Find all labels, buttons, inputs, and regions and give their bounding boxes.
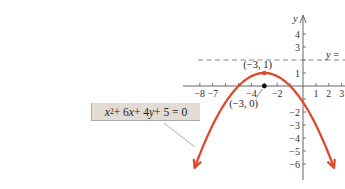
focus-leader-line xyxy=(256,89,262,98)
x-tick-label: 3 xyxy=(339,88,344,99)
x-tick-label: 1 xyxy=(313,88,318,99)
x-tick-label: −2 xyxy=(272,88,283,99)
eq-part-3: + 5 = 0 xyxy=(154,106,187,118)
parabola-chart: y−8−7−4−2123431−2−3−4−5−6 y = (−3, 1)(−3… xyxy=(0,0,345,189)
y-tick-label: −5 xyxy=(289,146,300,157)
x-tick-label: −7 xyxy=(207,88,218,99)
directrix-label: y = xyxy=(325,49,339,60)
y-tick-label: −2 xyxy=(289,107,300,118)
vertex-point xyxy=(262,71,267,76)
x-tick-label: 2 xyxy=(326,88,331,99)
y-tick-label: 3 xyxy=(295,42,300,53)
y-tick-label: −6 xyxy=(289,159,300,170)
equation-label: x2 + 6x + 4y + 5 = 0 xyxy=(91,103,200,121)
focus-label: (−3, 0) xyxy=(229,98,258,110)
vertex-label: (−3, 1) xyxy=(243,59,272,71)
y-tick-label: −3 xyxy=(289,120,300,131)
eq-part-2: + 4 xyxy=(134,106,149,118)
axes: y−8−7−4−2123431−2−3−4−5−6 xyxy=(183,13,345,180)
equation-leader-line xyxy=(164,123,195,147)
y-axis-label: y xyxy=(292,13,298,24)
y-tick-label: −4 xyxy=(289,133,300,144)
y-tick-label: 1 xyxy=(295,68,300,79)
y-tick-label: 4 xyxy=(295,29,300,40)
eq-part-1: + 6 xyxy=(114,106,129,118)
focus-point xyxy=(262,84,267,89)
x-tick-label: −8 xyxy=(194,88,205,99)
